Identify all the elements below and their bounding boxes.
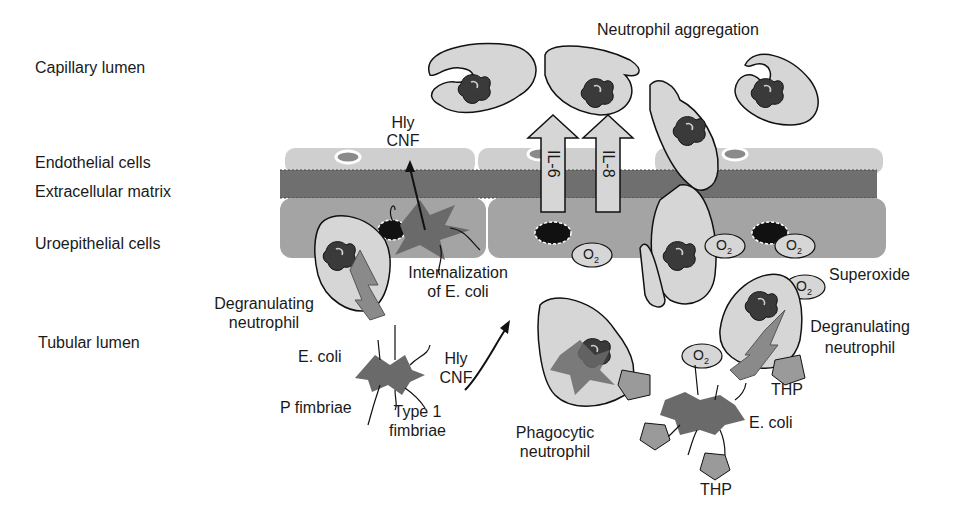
- label-p-fimbriae: P fimbriae: [280, 398, 352, 417]
- o2-label-2: O2: [716, 236, 732, 261]
- o2-label-3: O2: [786, 236, 802, 261]
- label-neutrophil-aggregation: Neutrophil aggregation: [597, 20, 759, 39]
- extracellular-matrix-layer: [280, 170, 877, 198]
- label-type1-fimbriae: Type 1: [380, 402, 455, 421]
- curved-arrowhead: [500, 320, 510, 334]
- o2-label-5: O2: [693, 346, 709, 371]
- o2-label-4: O2: [796, 277, 812, 302]
- label-phagocytic: Phagocytic: [500, 423, 610, 442]
- label-hly-top: Hly: [382, 113, 424, 132]
- neutrophil-phagocytic: [538, 298, 650, 406]
- label-cnf-top: CNF: [374, 131, 432, 150]
- diagram-graphics: [0, 0, 963, 518]
- label-extracellular-matrix: Extracellular matrix: [35, 182, 171, 201]
- label-internalization-ecoli: of E. coli: [393, 282, 523, 301]
- label-cnf-left: CNF: [432, 368, 480, 387]
- label-superoxide: Superoxide: [829, 265, 910, 284]
- label-type1-fimbriae-2: fimbriae: [380, 421, 455, 440]
- label-il8: IL-8: [599, 150, 618, 178]
- label-phagocytic-neutrophil: neutrophil: [500, 442, 610, 461]
- neutrophil-capillary-2: [545, 46, 639, 115]
- label-tubular-lumen: Tubular lumen: [38, 333, 140, 352]
- neutrophil-capillary-4: [735, 54, 818, 125]
- label-ecoli-right: E. coli: [749, 413, 793, 432]
- label-degranulating-left: Degranulating: [198, 294, 330, 313]
- neutrophil-capillary-1: [429, 44, 536, 113]
- label-degranulating-left-neutrophil: neutrophil: [198, 313, 330, 332]
- label-ecoli-left: E. coli: [298, 347, 342, 366]
- label-thp-right: THP: [771, 380, 803, 399]
- o2-label-1: O2: [583, 245, 599, 270]
- label-il6: IL-6: [544, 150, 563, 178]
- diagram-canvas: Capillary lumen Endothelial cells Extrac…: [0, 0, 963, 518]
- label-capillary-lumen: Capillary lumen: [35, 58, 145, 77]
- label-endothelial-cells: Endothelial cells: [35, 153, 151, 172]
- label-degranulating-right-neutrophil: neutrophil: [790, 338, 930, 357]
- label-uroepithelial-cells: Uroepithelial cells: [35, 234, 160, 253]
- label-hly-left: Hly: [435, 349, 477, 368]
- label-degranulating-right: Degranulating: [790, 317, 930, 336]
- label-thp-bottom: THP: [700, 480, 732, 499]
- ecoli-right: [660, 365, 746, 455]
- label-internalization: Internalization: [393, 263, 523, 282]
